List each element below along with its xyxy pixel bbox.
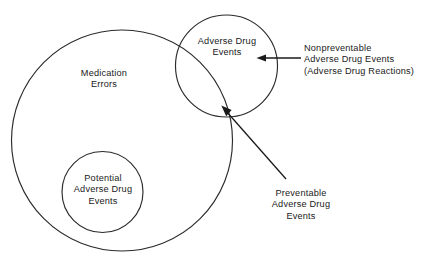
label-medication-errors-line-2: Errors [81,79,127,90]
label-adverse-drug-events-line-2: Events [198,47,256,58]
annotation-nonpreventable-line-2: Adverse Drug Events [304,54,414,65]
annotation-preventable-line-3: Events [272,211,330,222]
annotation-nonpreventable-line-1: Nonpreventable [304,43,414,54]
label-potential-ade-line-1: Potential [74,173,132,184]
circle-medication-errors [12,30,233,251]
label-medication-errors-line-1: Medication [81,68,127,79]
arrow-preventable [221,106,286,179]
label-adverse-drug-events: Adverse Drug Events [198,36,256,59]
circle-adverse-drug-events [176,15,278,117]
venn-diagram-canvas: Medication Errors Adverse Drug Events Po… [0,0,437,264]
annotation-nonpreventable-adverse-drug-events: Nonpreventable Adverse Drug Events (Adve… [304,43,414,77]
label-potential-ade-line-2: Adverse Drug [74,184,132,195]
annotation-nonpreventable-line-3: (Adverse Drug Reactions) [304,66,414,77]
arrow-nonpreventable [257,54,302,61]
annotation-preventable-line-1: Preventable [272,188,330,199]
label-potential-ade-line-3: Events [74,196,132,207]
label-potential-adverse-drug-events: Potential Adverse Drug Events [74,173,132,207]
annotation-preventable-line-2: Adverse Drug [272,199,330,210]
label-adverse-drug-events-line-1: Adverse Drug [198,36,256,47]
label-medication-errors: Medication Errors [81,68,127,91]
annotation-preventable-adverse-drug-events: Preventable Adverse Drug Events [272,188,330,222]
